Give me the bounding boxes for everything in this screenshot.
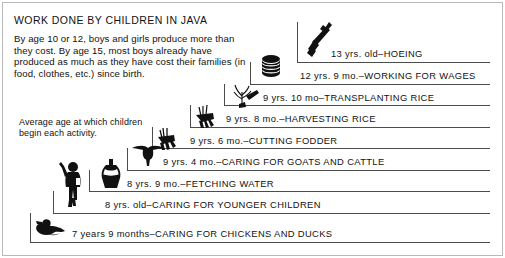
step-riser-caring-for-goats-and-cattle (127, 148, 128, 171)
step-riser-hoeing (297, 22, 298, 63)
step-label-caring-for-goats-and-cattle: 9 yrs. 4 mo.–CARING FOR GOATS AND CATTLE (163, 156, 385, 167)
step-tread-transplanting-rice (224, 105, 490, 106)
child-carrying-baby-icon (57, 160, 85, 208)
step-tread-harvesting-rice (190, 127, 490, 128)
step-riser-harvesting-rice (190, 105, 191, 128)
step-tread-fetching-water (89, 191, 490, 192)
infographic-work-done-by-children-in-java: WORK DONE BY CHILDREN IN JAVA By age 10 … (0, 0, 505, 258)
step-riser-transplanting-rice (224, 84, 225, 106)
step-label-transplanting-rice: 9 yrs. 10 mo–TRANSPLANTING RICE (263, 92, 434, 103)
side-note: Average age at which children begin each… (19, 117, 144, 139)
step-tread-caring-for-goats-and-cattle (127, 170, 490, 171)
page-title: WORK DONE BY CHILDREN IN JAVA (14, 14, 207, 26)
duck-icon (34, 218, 68, 238)
step-riser-fetching-water (89, 170, 90, 192)
step-riser-caring-for-chickens-and-ducks (30, 213, 31, 243)
step-tread-caring-for-chickens-and-ducks (30, 242, 490, 243)
intro-paragraph: By age 10 or 12, boys and girls produce … (14, 33, 249, 79)
step-label-fetching-water: 8 yrs. 9 mo.–FETCHING WATER (127, 178, 274, 189)
step-tread-caring-for-younger-children (53, 213, 490, 214)
rice-seedling-icon (228, 84, 260, 108)
step-label-working-for-wages: 12 yrs. 9 mo.–WORKING FOR WAGES (300, 70, 476, 81)
step-label-cutting-fodder: 9 yrs. 6 mo.–CUTTING FODDER (190, 135, 337, 146)
step-label-caring-for-chickens-and-ducks: 7 years 9 months–CARING FOR CHICKENS AND… (72, 228, 332, 239)
buffalo-icon (131, 144, 165, 170)
water-pot-icon (99, 158, 123, 190)
hoe-icon (304, 20, 334, 60)
step-riser-working-for-wages (250, 62, 251, 85)
step-riser-caring-for-younger-children (53, 191, 54, 214)
step-tread-hoeing (297, 62, 490, 63)
step-label-harvesting-rice: 9 yrs. 8 mo.–HARVESTING RICE (226, 113, 376, 124)
step-tread-working-for-wages (250, 84, 490, 85)
step-label-hoeing: 13 yrs. old–HOEING (331, 48, 423, 59)
rice-harvest-knife-icon (193, 104, 223, 129)
step-label-caring-for-younger-children: 8 yrs. old–CARING FOR YOUNGER CHILDREN (105, 199, 321, 210)
coin-stack-icon (259, 54, 283, 82)
step-tread-cutting-fodder (152, 148, 490, 149)
